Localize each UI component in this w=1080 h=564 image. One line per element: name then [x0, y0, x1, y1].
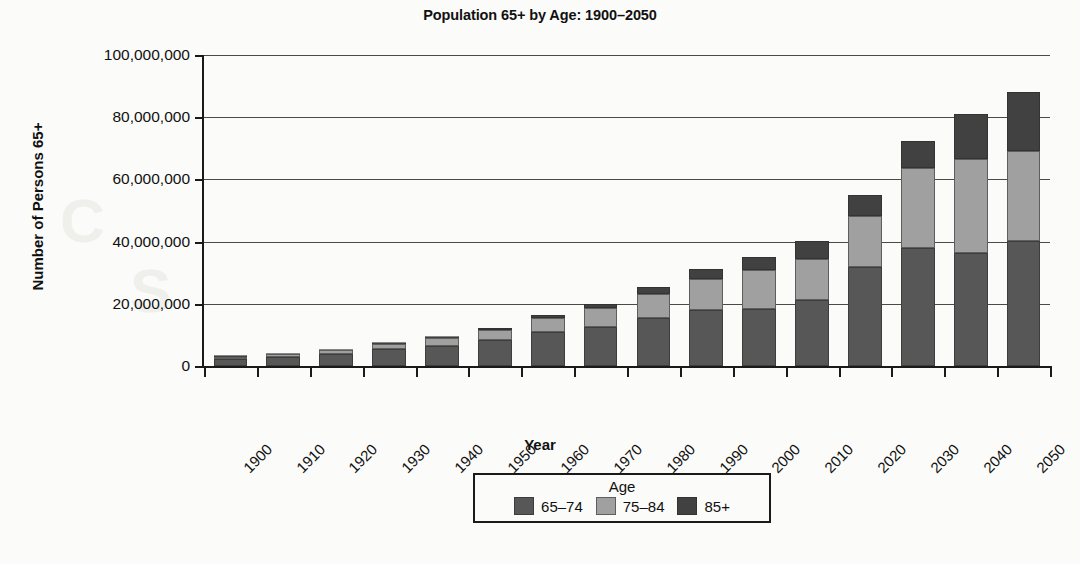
stacked-bar[interactable] — [848, 195, 882, 366]
x-tick-mark — [1050, 366, 1052, 377]
x-tick-mark — [786, 366, 788, 377]
bar-segment-6574 — [848, 267, 882, 366]
bar-group — [997, 55, 1050, 366]
stacked-bar[interactable] — [425, 337, 459, 366]
bar-segment-6574 — [689, 310, 723, 366]
bar-group — [363, 55, 416, 366]
x-tick-mark — [997, 366, 999, 377]
bar-segment-6574 — [954, 253, 988, 366]
bar-segment-7584 — [954, 159, 988, 253]
bar-segment-7584 — [848, 216, 882, 267]
bar-segment-7584 — [478, 330, 512, 340]
x-tick-mark — [944, 366, 946, 377]
bar-segment-6574 — [795, 300, 829, 366]
stacked-bar[interactable] — [742, 257, 776, 366]
y-tick-label: 60,000,000 — [112, 170, 190, 188]
bar-segment-6574 — [214, 359, 248, 366]
bar-segment-85+ — [954, 114, 988, 158]
stacked-bar[interactable] — [1007, 92, 1041, 366]
x-tick-mark — [680, 366, 682, 377]
x-axis-title: Year — [0, 436, 1080, 453]
bar-segment-7584 — [795, 259, 829, 300]
bar-segment-6574 — [478, 340, 512, 366]
chart-page: C S Population 65+ by Age: 1900–2050 Num… — [0, 0, 1080, 564]
bar-group — [944, 55, 997, 366]
bar-segment-7584 — [637, 294, 671, 318]
x-tick-mark — [416, 366, 418, 377]
legend-swatch-icon — [596, 497, 616, 515]
y-tick-mark — [195, 366, 204, 368]
y-tick-label: 0 — [181, 357, 190, 375]
bar-segment-85+ — [795, 241, 829, 259]
y-tick-label: 80,000,000 — [112, 108, 190, 126]
bar-segment-85+ — [901, 141, 935, 168]
bar-group — [468, 55, 521, 366]
y-axis-title: Number of Persons 65+ — [29, 77, 46, 337]
bar-segment-7584 — [901, 168, 935, 248]
bar-segment-85+ — [1007, 92, 1041, 151]
legend-label: 75–84 — [623, 498, 665, 515]
bar-segment-6574 — [372, 349, 406, 366]
stacked-bar[interactable] — [319, 350, 353, 366]
legend-item[interactable]: 75–84 — [596, 497, 665, 515]
bar-segment-7584 — [425, 338, 459, 346]
bar-segment-7584 — [689, 279, 723, 310]
bar-group — [680, 55, 733, 366]
bar-group — [257, 55, 310, 366]
stacked-bar[interactable] — [214, 356, 248, 366]
x-tick-mark — [627, 366, 629, 377]
y-tick-label: 20,000,000 — [112, 295, 190, 313]
bar-group — [733, 55, 786, 366]
bar-group — [574, 55, 627, 366]
x-tick-mark — [310, 366, 312, 377]
bar-segment-6574 — [531, 332, 565, 366]
stacked-bar[interactable] — [478, 328, 512, 366]
x-tick-mark — [521, 366, 523, 377]
bar-segment-6574 — [584, 327, 618, 366]
legend: Age 65–7475–8485+ — [473, 473, 771, 523]
bar-segment-6574 — [425, 346, 459, 366]
y-tick-mark — [195, 179, 204, 181]
bar-group — [627, 55, 680, 366]
bar-segment-7584 — [1007, 151, 1041, 241]
y-tick-mark — [195, 304, 204, 306]
y-tick-mark — [195, 55, 204, 57]
bar-group — [521, 55, 574, 366]
bar-segment-85+ — [637, 287, 671, 294]
y-tick-label: 100,000,000 — [104, 46, 190, 64]
legend-item[interactable]: 85+ — [677, 497, 729, 515]
stacked-bar[interactable] — [901, 141, 935, 366]
bar-group — [786, 55, 839, 366]
plot-area: 020,000,00040,000,00060,000,00080,000,00… — [202, 55, 1050, 368]
stacked-bar[interactable] — [795, 241, 829, 366]
legend-label: 65–74 — [541, 498, 583, 515]
y-tick-mark — [195, 242, 204, 244]
stacked-bar[interactable] — [689, 269, 723, 366]
x-tick-mark — [363, 366, 365, 377]
legend-swatch-icon — [677, 497, 697, 515]
x-tick-mark — [839, 366, 841, 377]
legend-title: Age — [475, 478, 769, 495]
stacked-bar[interactable] — [637, 287, 671, 366]
bar-segment-7584 — [584, 308, 618, 327]
legend-swatch-icon — [514, 497, 534, 515]
stacked-bar[interactable] — [372, 343, 406, 366]
bar-segment-6574 — [637, 318, 671, 366]
bar-group — [891, 55, 944, 366]
x-tick-mark — [891, 366, 893, 377]
legend-label: 85+ — [704, 498, 729, 515]
stacked-bar[interactable] — [954, 114, 988, 366]
bar-segment-85+ — [848, 195, 882, 216]
bar-group — [310, 55, 363, 366]
bar-segment-7584 — [531, 318, 565, 332]
stacked-bar[interactable] — [266, 354, 300, 366]
chart-title: Population 65+ by Age: 1900–2050 — [0, 7, 1080, 23]
stacked-bar[interactable] — [584, 304, 618, 366]
stacked-bar[interactable] — [531, 315, 565, 366]
bar-segment-6574 — [901, 248, 935, 366]
bar-segment-6574 — [319, 354, 353, 366]
x-tick-mark — [468, 366, 470, 377]
bar-segment-6574 — [1007, 241, 1041, 366]
y-tick-mark — [195, 117, 204, 119]
legend-item[interactable]: 65–74 — [514, 497, 583, 515]
